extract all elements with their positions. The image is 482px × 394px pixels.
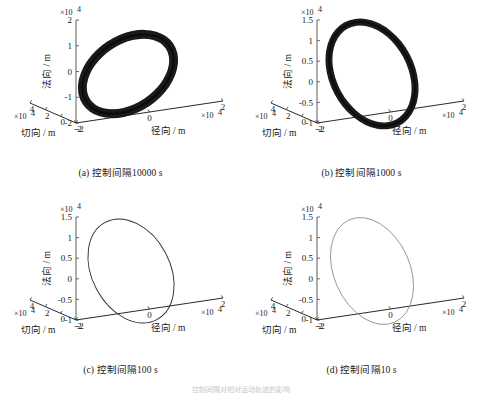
x-tick-label: 0	[60, 314, 65, 324]
y-axis-exponent: ×10	[201, 308, 214, 317]
z-axis-c: 1.510.50-0.5-1×104法向 / m	[41, 202, 81, 326]
z-tick-label: 1	[68, 41, 73, 51]
x-axis-title: 切向 / m	[262, 127, 297, 138]
x-axis-title: 切向 / m	[262, 324, 297, 335]
z-tick-label: 0.5	[302, 253, 314, 263]
z-axis-d: 1.510.50-0.5-1×104法向 / m	[282, 202, 322, 326]
orbit-trajectory-a	[61, 12, 194, 137]
z-tick-label: 0	[68, 274, 73, 284]
orbit-band	[61, 12, 194, 137]
z-tick-label: -0.5	[58, 295, 73, 305]
y-axis-exponent-power: 4	[218, 108, 222, 117]
y-tick-label: 0	[147, 113, 152, 123]
z-tick-label: -0.5	[299, 98, 314, 108]
y-axis-exponent-power: 4	[218, 305, 222, 314]
figure-container: 210-1-2×104法向 / m420-2×104切向 / m-202×104…	[0, 0, 482, 394]
z-tick-label: 0	[309, 77, 314, 87]
z-axis-exponent-power: 4	[318, 202, 322, 211]
y-axis-exponent: ×10	[442, 111, 455, 120]
x-axis-exponent-power: 4	[272, 306, 276, 315]
y-tick-label: -2	[76, 124, 84, 134]
x-axis-title: 切向 / m	[21, 127, 56, 138]
y-tick-label: -2	[317, 124, 325, 134]
x-tick-label: 0	[60, 117, 65, 127]
y-axis-title: 径向 / m	[151, 125, 186, 136]
orbit-trajectory-b	[307, 2, 437, 145]
z-axis-title: 法向 / m	[41, 54, 52, 89]
y-axis-exponent: ×10	[201, 111, 214, 120]
subplot-caption-c: (c) 控制间隔100 s	[0, 362, 241, 376]
z-tick-label: 1	[309, 233, 314, 243]
z-axis-title: 法向 / m	[41, 251, 52, 286]
y-axis-title: 径向 / m	[151, 322, 186, 333]
z-tick-label: 0	[309, 274, 314, 284]
y-tick-label: -2	[317, 321, 325, 331]
z-axis-exponent-power: 4	[318, 5, 322, 14]
z-tick-label: -0.5	[299, 295, 314, 305]
subplot-caption-d: (d) 控制间隔10 s	[241, 362, 482, 376]
subplot-d: 1.510.50-0.5-1×104法向 / m420-2×104切向 / m-…	[241, 197, 482, 394]
x-tick-label: 2	[45, 111, 50, 121]
z-axis-exponent: ×10	[301, 205, 314, 214]
y-axis-b: -202×104径向 / m	[315, 98, 466, 136]
x-tick-label: 0	[301, 117, 306, 127]
y-tick-label: 0	[388, 310, 393, 320]
y-tick-label: 0	[147, 310, 152, 320]
y-axis-exponent-power: 4	[459, 108, 463, 117]
z-axis-title: 法向 / m	[282, 54, 293, 89]
page-tail-text: 控制间隔对相对运动轨迹的影响	[0, 384, 482, 394]
z-axis-title: 法向 / m	[282, 251, 293, 286]
y-axis-exponent: ×10	[442, 308, 455, 317]
z-tick-label: 0.5	[302, 56, 314, 66]
subplot-a: 210-1-2×104法向 / m420-2×104切向 / m-202×104…	[0, 0, 241, 197]
z-axis-exponent: ×10	[301, 8, 314, 17]
x-axis-exponent: ×10	[255, 112, 268, 121]
x-tick-label: 0	[301, 314, 306, 324]
y-axis-d: -202×104径向 / m	[315, 295, 466, 333]
subplot-caption-b: (b) 控制间隔1000 s	[241, 165, 482, 179]
z-tick-label: 0	[68, 67, 73, 77]
z-tick-label: 1	[309, 36, 314, 46]
subplot-b: 1.510.50-0.5-1×104法向 / m420-2×104切向 / m-…	[241, 0, 482, 197]
z-tick-label: 0.5	[61, 253, 73, 263]
x-axis-exponent: ×10	[255, 309, 268, 318]
x-axis-exponent: ×10	[14, 112, 27, 121]
x-axis-exponent-power: 4	[31, 109, 35, 118]
z-axis-b: 1.510.50-0.5-1×104法向 / m	[282, 5, 322, 129]
y-axis-c: -202×104径向 / m	[74, 295, 225, 333]
x-axis-exponent: ×10	[14, 309, 27, 318]
y-axis-exponent-power: 4	[459, 305, 463, 314]
x-axis-title: 切向 / m	[21, 324, 56, 335]
y-axis-title: 径向 / m	[392, 322, 427, 333]
y-tick-label: -2	[76, 321, 84, 331]
x-axis-exponent-power: 4	[272, 109, 276, 118]
subplot-c: 1.510.50-0.5-1×104法向 / m420-2×104切向 / m-…	[0, 197, 241, 394]
z-axis-exponent: ×10	[60, 205, 73, 214]
z-axis-exponent-power: 4	[77, 202, 81, 211]
x-tick-label: 2	[286, 111, 291, 121]
subplot-caption-a: (a) 控制间隔10000 s	[0, 165, 241, 179]
z-tick-label: -1	[65, 92, 73, 102]
x-axis-exponent-power: 4	[31, 306, 35, 315]
z-axis-a: 210-1-2×104法向 / m	[41, 5, 81, 129]
z-axis-exponent-power: 4	[77, 5, 81, 14]
x-tick-label: 2	[45, 308, 50, 318]
z-axis-exponent: ×10	[60, 8, 73, 17]
z-tick-label: 1	[68, 233, 73, 243]
x-tick-label: 2	[286, 308, 291, 318]
